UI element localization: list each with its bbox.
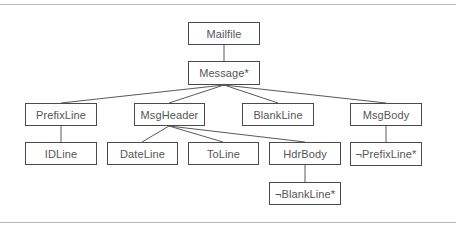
node-dateline: DateLine [107,142,178,165]
node-idline: IDLine [25,142,97,165]
node-prefixline: PrefixLine [25,103,97,126]
node-msgbody: MsgBody [350,103,422,126]
node-label: IDLine [45,148,77,160]
node-label: BlankLine [253,109,302,121]
node-not-prefixline: ¬PrefixLine* [350,142,422,166]
node-label: Message* [199,67,249,79]
node-message: Message* [188,61,260,85]
node-label: MsgHeader [141,109,199,121]
node-label: ¬PrefixLine* [356,148,417,160]
node-blankline: BlankLine [242,103,314,126]
node-label: HdrBody [283,148,327,160]
edge-msgheader-toline [169,126,223,142]
node-toline: ToLine [188,142,259,165]
node-hdrbody: HdrBody [269,142,341,165]
node-mailfile: Mailfile [188,22,260,45]
node-label: ToLine [207,148,240,160]
node-not-blankline: ¬BlankLine* [269,182,341,205]
edge-msgheader-hdrbody [169,126,305,142]
node-label: MsgBody [363,109,410,121]
node-label: DateLine [120,148,165,160]
node-label: Mailfile [206,28,241,40]
node-label: ¬BlankLine* [275,188,335,200]
edge-msgheader-dateline [142,126,169,142]
edge-message-prefixline [61,85,224,103]
node-label: PrefixLine [36,109,86,121]
node-msgheader: MsgHeader [134,103,205,126]
edge-message-msgbody [224,85,386,103]
